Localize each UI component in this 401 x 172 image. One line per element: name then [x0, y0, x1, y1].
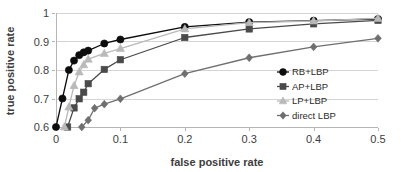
- y-tick-label: 0.7: [34, 93, 49, 105]
- data-point-marker-diamond: [101, 100, 108, 108]
- x-tick-label: 0.4: [306, 133, 321, 145]
- legend-label: AP+LBP: [292, 81, 328, 92]
- data-point-marker-circle: [280, 69, 287, 76]
- data-point-marker-circle: [70, 57, 77, 64]
- x-axis-title: false positive rate: [171, 156, 264, 168]
- x-tick-label: 0.5: [370, 133, 385, 145]
- legend-item-rb-lbp[interactable]: RB+LBP: [277, 66, 329, 77]
- legend-item-lp-lbp[interactable]: LP+LBP: [277, 95, 327, 106]
- x-tick-label: 0.2: [177, 133, 192, 145]
- data-point-marker-square: [182, 34, 188, 40]
- data-point-marker-diamond: [117, 95, 124, 103]
- y-tick-label: 0.8: [34, 64, 49, 76]
- legend: RB+LBPAP+LBPLP+LBPdirect LBP: [277, 66, 336, 121]
- y-axis-tick-labels: 0.60.70.80.91: [34, 7, 49, 133]
- data-point-marker-square: [85, 80, 91, 86]
- x-tick-label: 0: [53, 133, 59, 145]
- legend-label: direct LBP: [292, 110, 336, 121]
- legend-label: RB+LBP: [292, 66, 329, 77]
- series-direct-lbp: [78, 34, 381, 130]
- legend-item-direct-lbp[interactable]: direct LBP: [277, 110, 336, 121]
- data-point-marker-diamond: [246, 54, 253, 62]
- data-point-marker-circle: [117, 36, 124, 43]
- x-axis-tick-labels: 00.10.20.30.40.5: [53, 133, 386, 145]
- roc-chart: 0.60.70.80.91 00.10.20.30.40.5 RB+LBPAP+…: [0, 0, 401, 172]
- y-axis-title: true positive rate: [4, 27, 16, 116]
- data-point-marker-triangle: [70, 81, 78, 88]
- data-point-marker-diamond: [310, 43, 317, 51]
- y-tick-label: 0.9: [34, 36, 49, 48]
- data-point-marker-circle: [52, 123, 59, 130]
- data-point-marker-square: [246, 26, 252, 32]
- legend-item-ap-lbp[interactable]: AP+LBP: [277, 81, 328, 92]
- data-point-marker-circle: [101, 40, 108, 47]
- data-point-marker-circle: [59, 95, 66, 102]
- x-tick-label: 0.1: [113, 133, 128, 145]
- data-point-marker-square: [117, 57, 123, 63]
- data-point-marker-square: [76, 96, 82, 102]
- y-tick-label: 0.6: [34, 121, 49, 133]
- data-point-marker-square: [280, 83, 286, 89]
- data-point-marker-square: [101, 66, 107, 72]
- data-point-marker-triangle: [75, 68, 83, 75]
- data-point-marker-circle: [85, 47, 92, 54]
- data-point-marker-circle: [65, 66, 72, 73]
- data-point-marker-square: [80, 89, 86, 95]
- chart-canvas: 0.60.70.80.91 00.10.20.30.40.5 RB+LBPAP+…: [0, 0, 401, 172]
- data-point-marker-diamond: [280, 112, 286, 119]
- legend-label: LP+LBP: [292, 95, 327, 106]
- x-tick-label: 0.3: [242, 133, 257, 145]
- data-point-marker-diamond: [91, 104, 98, 112]
- y-tick-label: 1: [43, 7, 49, 19]
